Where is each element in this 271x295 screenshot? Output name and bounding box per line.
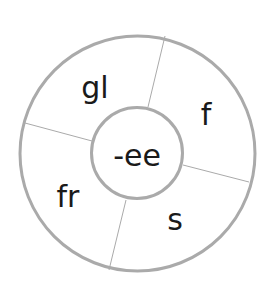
segment-label-s: s [167,205,183,235]
segment-label-f: f [201,100,212,130]
divider-right [183,165,249,182]
divider-top [148,36,165,107]
divider-left [25,123,92,141]
center-label: -ee [113,141,161,171]
divider-bottom [109,200,126,270]
segment-label-gl: gl [81,73,108,103]
segment-label-fr: fr [57,182,80,212]
